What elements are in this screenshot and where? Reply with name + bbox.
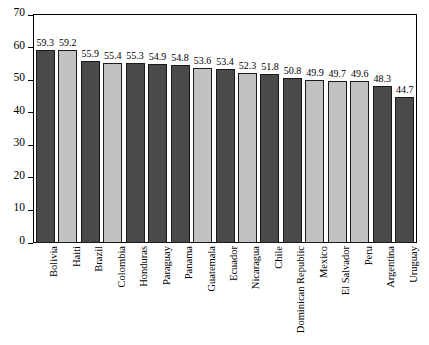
y-axis-tick-label: 70	[14, 7, 26, 19]
bar	[216, 69, 235, 243]
y-axis-tick-label: 0	[19, 235, 25, 247]
bar-group: 54.9	[148, 15, 167, 243]
bar-group: 44.7	[395, 15, 414, 243]
bar-value-label: 48.3	[374, 74, 392, 84]
x-axis-label: Guatemala	[193, 246, 212, 342]
bar-group: 55.3	[126, 15, 145, 243]
bar-group: 50.8	[283, 15, 302, 243]
bar	[103, 63, 122, 243]
bar-group: 52.3	[238, 15, 257, 243]
x-axis-label: Brazil	[81, 246, 100, 342]
bar	[58, 50, 77, 243]
bar-value-label: 52.3	[239, 61, 257, 71]
bar	[395, 97, 414, 243]
bar-chart: 010203040506070 59.359.255.955.455.354.9…	[0, 0, 429, 345]
bar-value-label: 53.4	[216, 57, 234, 67]
x-axis-label: El Salvador	[328, 246, 347, 342]
bar	[126, 63, 145, 243]
bar-group: 53.4	[216, 15, 235, 243]
x-axis-label: Chile	[260, 246, 279, 342]
y-axis-tick-label: 60	[14, 40, 26, 52]
bar-value-label: 49.7	[329, 69, 347, 79]
bar-group: 53.6	[193, 15, 212, 243]
bar	[373, 86, 392, 243]
x-axis-label: Nicaragua	[238, 246, 257, 342]
bar-group: 49.7	[328, 15, 347, 243]
y-axis-tick-label: 50	[14, 72, 26, 84]
bar-group: 54.8	[171, 15, 190, 243]
bar-value-label: 49.6	[351, 69, 369, 79]
x-axis-label-text: Uruguay	[409, 246, 420, 283]
bar-value-label: 53.6	[194, 56, 212, 66]
y-axis-tick-label: 40	[14, 105, 26, 117]
x-axis-label: Honduras	[126, 246, 145, 342]
bar	[148, 64, 167, 243]
x-axis-label: Mexico	[305, 246, 324, 342]
y-axis-tick-label: 30	[14, 137, 26, 149]
bar	[81, 61, 100, 243]
bar-value-label: 49.9	[306, 68, 324, 78]
x-axis-label: Colombia	[103, 246, 122, 342]
x-axis-label: Ecuador	[216, 246, 235, 342]
x-axis-label: Uruguay	[395, 246, 414, 342]
bar-group: 49.9	[305, 15, 324, 243]
x-axis-labels: BoliviaHaitiBrazilColombiaHondurasParagu…	[34, 246, 416, 345]
bar-group: 55.9	[81, 15, 100, 243]
bar-group: 48.3	[373, 15, 392, 243]
bar-group: 49.6	[350, 15, 369, 243]
bar-group: 59.2	[58, 15, 77, 243]
bar-value-label: 59.2	[59, 38, 77, 48]
bar-value-label: 55.3	[126, 51, 144, 61]
bar	[283, 78, 302, 243]
x-axis-label: Paraguay	[148, 246, 167, 342]
x-axis-label: Bolivia	[36, 246, 55, 342]
bar	[36, 50, 55, 243]
bar-value-label: 50.8	[284, 66, 302, 76]
bar-value-label: 59.3	[36, 38, 54, 48]
y-axis: 010203040506070	[0, 14, 33, 244]
bar-group: 55.4	[103, 15, 122, 243]
bar-group: 59.3	[36, 15, 55, 243]
bar	[328, 81, 347, 243]
y-axis-tick-label: 20	[14, 170, 26, 182]
bar	[350, 81, 369, 243]
x-axis-label: Dominican Republic	[283, 246, 302, 342]
y-axis-tick-label: 10	[14, 202, 26, 214]
bar	[260, 74, 279, 243]
bar-group: 51.8	[260, 15, 279, 243]
bar	[305, 80, 324, 243]
bar-value-label: 55.4	[104, 51, 122, 61]
x-axis-label: Panama	[171, 246, 190, 342]
x-axis-label: Peru	[350, 246, 369, 342]
x-axis-label: Haiti	[58, 246, 77, 342]
x-axis-label: Argentina	[373, 246, 392, 342]
bar	[171, 65, 190, 243]
bar-value-label: 55.9	[81, 49, 99, 59]
bar-value-label: 54.8	[171, 53, 189, 63]
bar	[193, 68, 212, 243]
bar-value-label: 44.7	[396, 85, 414, 95]
bar-value-label: 54.9	[149, 52, 167, 62]
bars-layer: 59.359.255.955.455.354.954.853.653.452.3…	[34, 15, 416, 243]
bar	[238, 73, 257, 243]
bar-value-label: 51.8	[261, 62, 279, 72]
